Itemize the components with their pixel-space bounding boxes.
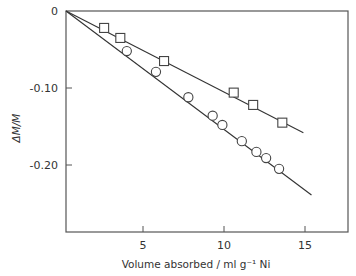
data-markers [100, 23, 287, 173]
y-tick-label: -0.10 [30, 82, 58, 95]
square-marker [160, 57, 169, 66]
square-marker [278, 118, 287, 127]
x-tick-label: 5 [140, 239, 147, 252]
square-marker [116, 33, 125, 42]
y-tick-label: 0 [51, 5, 58, 18]
circle-marker [151, 67, 160, 76]
square-marker [229, 88, 238, 97]
square-marker [249, 100, 258, 109]
circle-marker [252, 147, 261, 156]
y-axis-title: ΔM/M [10, 114, 22, 144]
circle-marker [122, 46, 131, 55]
chart: 51015 0-0.10-0.20 Volume absorbed / ml g… [0, 0, 356, 276]
circle-marker [274, 164, 283, 173]
circle-marker [208, 111, 217, 120]
x-tick-label: 10 [217, 239, 231, 252]
y-tick-label: -0.20 [30, 159, 58, 172]
circle-marker [237, 137, 246, 146]
x-tick-label: 15 [298, 239, 312, 252]
circle-marker [218, 120, 227, 129]
square-marker [100, 23, 109, 32]
circle-marker [262, 153, 271, 162]
x-axis-title: Volume absorbed / ml g⁻¹ Ni [122, 258, 271, 270]
plot-frame [66, 11, 348, 232]
circle-marker [184, 93, 193, 102]
x-axis-ticks: 51015 [140, 226, 313, 252]
